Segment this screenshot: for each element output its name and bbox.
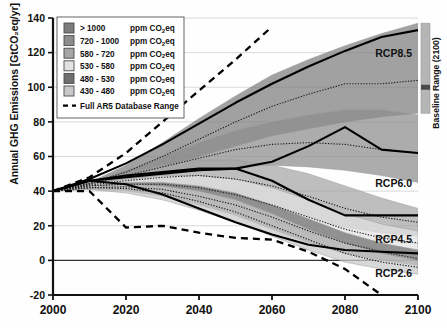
legend-swatch-5 — [64, 86, 74, 96]
baseline-range-bar — [421, 23, 430, 113]
baseline-bar-marker — [421, 85, 430, 90]
legend-swatch-1 — [64, 36, 74, 46]
y-tick-label: 120 — [27, 46, 45, 58]
baseline-bar-body — [421, 23, 430, 113]
annotation-rcp26: RCP2.6 — [375, 267, 412, 279]
chart-canvas: -20020406080100120140 200020202040206020… — [0, 0, 447, 328]
y-tick-label: 20 — [33, 220, 45, 232]
annotation-rcp85: RCP8.5 — [375, 47, 412, 59]
legend-unit-5: ppm CO2eq — [130, 87, 175, 97]
x-tick-label: 2080 — [332, 303, 359, 317]
legend-label-2: 580 - 720 — [80, 50, 115, 59]
legend-unit-0: ppm CO2eq — [130, 24, 175, 34]
x-axis-ticks: 200020202040206020802100 — [40, 295, 432, 317]
y-tick-label: 0 — [39, 254, 45, 266]
y-tick-label: 100 — [27, 81, 45, 93]
legend: > 1000ppm CO2eq720 - 1000ppm CO2eq580 - … — [57, 17, 184, 118]
legend-label-1: 720 - 1000 — [80, 37, 120, 46]
legend-dash-label: Full AR5 Database Range — [80, 102, 179, 111]
x-tick-label: 2060 — [259, 303, 286, 317]
legend-label-4: 480 - 530 — [80, 75, 115, 84]
legend-swatch-2 — [64, 48, 74, 58]
x-tick-label: 2100 — [405, 303, 432, 317]
x-tick-label: 2040 — [186, 303, 213, 317]
x-tick-label: 2000 — [40, 303, 67, 317]
legend-swatch-4 — [64, 73, 74, 83]
legend-label-3: 530 - 580 — [80, 62, 115, 71]
y-tick-label: 80 — [33, 116, 45, 128]
annotation-rcp45: RCP4.5 — [375, 233, 412, 245]
legend-label-5: 430 - 480 — [80, 87, 115, 96]
y-axis-ticks: -20020406080100120140 — [27, 12, 53, 301]
x-tick-label: 2020 — [113, 303, 140, 317]
y-tick-label: 40 — [33, 185, 45, 197]
chart-figure: Annual GHG Emissions [GtCO₂eq/yr] Baseli… — [0, 0, 447, 328]
annotation-rcp60: RCP6.0 — [375, 177, 412, 189]
y-tick-label: 60 — [33, 150, 45, 162]
legend-label-0: > 1000 — [80, 24, 106, 33]
legend-swatch-0 — [64, 23, 74, 33]
legend-unit-4: ppm CO2eq — [130, 75, 175, 85]
legend-unit-3: ppm CO2eq — [130, 62, 175, 72]
y-tick-label: 140 — [27, 12, 45, 24]
y-tick-label: -20 — [30, 289, 45, 301]
legend-unit-1: ppm CO2eq — [130, 37, 175, 47]
legend-unit-2: ppm CO2eq — [130, 50, 175, 60]
legend-swatch-3 — [64, 61, 74, 71]
